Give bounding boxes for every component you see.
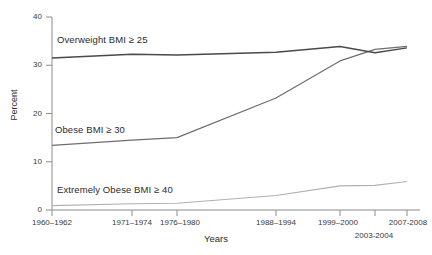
x-tick-label-1988-1994: 1988–1994 — [256, 219, 296, 227]
x-tick-label-2003-2004: 2003-2004 — [355, 232, 393, 240]
x-tick-label-1999-2000: 1999–2000 — [318, 219, 358, 227]
x-tick-label-2007-2008: 2007-2008 — [389, 219, 427, 227]
y-tick-label-40: 40 — [24, 13, 42, 21]
obesity-trend-chart: Percent Years 0 10 20 30 40 1960–1962 19… — [0, 0, 432, 255]
x-tick-label-1960-1962: 1960–1962 — [32, 219, 72, 227]
y-tick-label-10: 10 — [24, 158, 42, 166]
y-tick-label-20: 20 — [24, 110, 42, 118]
y-tick-label-0: 0 — [24, 206, 42, 214]
series-label-obese: Obese BMI ≥ 30 — [55, 124, 125, 135]
y-axis-title: Percent — [9, 75, 19, 135]
x-tick-label-1976-1980: 1976–1980 — [160, 219, 200, 227]
x-axis-ticks — [52, 210, 407, 216]
y-axis-ticks — [46, 17, 52, 210]
series-label-extremely-obese: Extremely Obese BMI ≥ 40 — [57, 184, 173, 195]
y-tick-label-30: 30 — [24, 61, 42, 69]
series-label-overweight: Overweight BMI ≥ 25 — [57, 34, 148, 45]
x-tick-label-1971-1974: 1971–1974 — [112, 219, 152, 227]
